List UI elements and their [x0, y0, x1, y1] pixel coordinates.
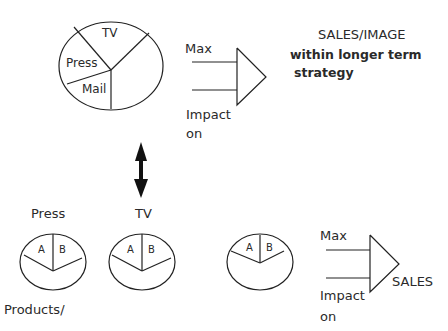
top-arrow-impact-label: Impact: [186, 108, 231, 121]
bottom-pie-press-label-b: B: [59, 245, 66, 255]
top-impact-arrow: [192, 48, 266, 105]
top-pie-label-mail: Mail: [82, 83, 106, 95]
bottom-pie-press-label-a: A: [38, 245, 45, 255]
bottom-pie-tv-label-a: A: [127, 245, 134, 255]
bottom-arrow-target-sales: SALES: [392, 275, 433, 288]
bottom-arrow-max-label: Max: [320, 229, 347, 242]
double-arrow-vertical-icon: [134, 142, 148, 198]
top-pie-label-tv: TV: [102, 27, 118, 39]
bottom-pie-3-label-b: B: [266, 243, 273, 253]
goal-line-1: within longer term: [290, 49, 422, 62]
bottom-pie-title-press: Press: [31, 207, 65, 220]
bottom-arrow-on-label: on: [320, 310, 336, 323]
bottom-pie-3-label-a: A: [246, 243, 253, 253]
goal-line-2: strategy: [294, 67, 354, 80]
top-pie-label-press: Press: [66, 57, 98, 69]
bottom-pie-tv-label-b: B: [148, 245, 155, 255]
top-arrow-on-label: on: [186, 127, 202, 140]
footer-products-label: Products/: [4, 303, 65, 316]
bottom-arrow-impact-label: Impact: [320, 289, 365, 302]
bottom-pie-tv: [109, 234, 175, 290]
bottom-impact-arrow: [326, 235, 399, 292]
bottom-pie-unlabeled: [227, 234, 293, 290]
goal-title: SALES/IMAGE: [318, 28, 405, 41]
top-arrow-max-label: Max: [185, 42, 212, 55]
bottom-pie-title-tv: TV: [135, 207, 152, 220]
bottom-pie-press: [20, 234, 86, 290]
